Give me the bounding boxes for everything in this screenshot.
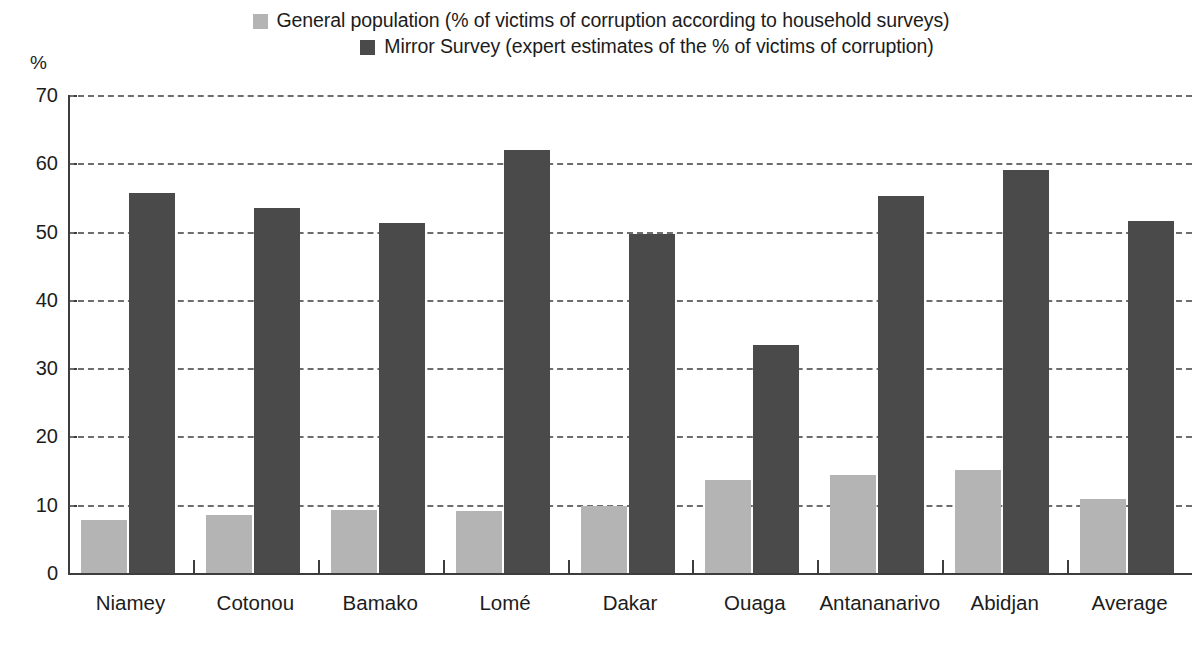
legend-item-mirror-survey: Mirror Survey (expert estimates of the %… <box>268 34 933 60</box>
x-axis-category-label: Cotonou <box>193 591 318 615</box>
x-axis-tick-mark <box>817 560 819 573</box>
bar-group: Average <box>1067 95 1192 573</box>
y-axis-unit-label: % <box>30 52 47 74</box>
bar-mirror-survey[interactable] <box>1003 170 1049 573</box>
bar-group: Niamey <box>68 95 193 573</box>
x-axis-tick-mark <box>692 560 694 573</box>
y-axis-tick-label: 20 <box>14 425 58 448</box>
legend-item-general-population: General population (% of victims of corr… <box>253 8 950 34</box>
bar-general-population[interactable] <box>456 511 502 573</box>
bar-mirror-survey[interactable] <box>878 196 924 573</box>
legend-label-mirror-survey: Mirror Survey (expert estimates of the %… <box>384 37 933 57</box>
bar-group: Abidjan <box>942 95 1067 573</box>
y-axis-tick-label: 50 <box>14 220 58 243</box>
chart-page: General population (% of victims of corr… <box>0 0 1202 656</box>
bar-group: Antananarivo <box>817 95 942 573</box>
x-axis-tick-mark <box>443 560 445 573</box>
y-axis-tick-label: 70 <box>14 84 58 107</box>
bar-mirror-survey[interactable] <box>1128 221 1174 573</box>
bar-groups: NiameyCotonouBamakoLoméDakarOuagaAntanan… <box>68 95 1192 573</box>
x-axis-category-label: Ouaga <box>692 591 817 615</box>
y-axis-tick-label: 60 <box>14 152 58 175</box>
bar-group: Cotonou <box>193 95 318 573</box>
legend-swatch-mirror-survey <box>360 40 375 55</box>
bar-general-population[interactable] <box>1080 499 1126 573</box>
bar-general-population[interactable] <box>955 470 1001 573</box>
bar-group: Dakar <box>568 95 693 573</box>
x-axis-category-label: Average <box>1067 591 1192 615</box>
y-axis-tick-label: 0 <box>14 562 58 585</box>
plot-area: NiameyCotonouBamakoLoméDakarOuagaAntanan… <box>68 95 1192 573</box>
bar-group: Ouaga <box>692 95 817 573</box>
bar-mirror-survey[interactable] <box>753 345 799 573</box>
x-axis-category-label: Niamey <box>68 591 193 615</box>
y-axis-tick-label: 10 <box>14 493 58 516</box>
legend-swatch-general-population <box>253 14 268 29</box>
bar-mirror-survey[interactable] <box>129 193 175 573</box>
chart-legend: General population (% of victims of corr… <box>0 8 1202 60</box>
x-axis-category-label: Bamako <box>318 591 443 615</box>
bar-mirror-survey[interactable] <box>379 223 425 573</box>
bar-general-population[interactable] <box>331 510 377 573</box>
y-axis-tick-labels: 706050403020100 <box>0 95 58 573</box>
x-axis-tick-mark <box>568 560 570 573</box>
bar-group: Lomé <box>443 95 568 573</box>
bar-general-population[interactable] <box>705 480 751 573</box>
x-axis-tick-mark <box>193 560 195 573</box>
bar-mirror-survey[interactable] <box>629 234 675 573</box>
bar-mirror-survey[interactable] <box>254 208 300 573</box>
x-axis-category-label: Abidjan <box>942 591 1067 615</box>
x-axis-line <box>68 573 1192 575</box>
x-axis-tick-mark <box>1067 560 1069 573</box>
x-axis-tick-mark <box>318 560 320 573</box>
y-axis-tick-label: 40 <box>14 288 58 311</box>
bar-group: Bamako <box>318 95 443 573</box>
bar-general-population[interactable] <box>581 506 627 573</box>
bar-mirror-survey[interactable] <box>504 150 550 573</box>
bar-general-population[interactable] <box>206 515 252 573</box>
x-axis-category-label: Antananarivo <box>817 591 942 615</box>
x-axis-tick-mark <box>942 560 944 573</box>
bar-general-population[interactable] <box>830 475 876 573</box>
bar-general-population[interactable] <box>81 520 127 573</box>
y-axis-tick-label: 30 <box>14 357 58 380</box>
x-axis-category-label: Dakar <box>568 591 693 615</box>
x-axis-category-label: Lomé <box>443 591 568 615</box>
legend-label-general-population: General population (% of victims of corr… <box>277 11 950 31</box>
